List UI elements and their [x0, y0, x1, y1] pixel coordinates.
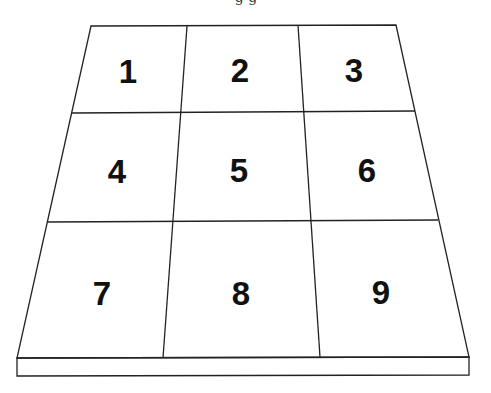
column-divider-2 [298, 25, 320, 357]
cell-label-4: 4 [108, 153, 127, 190]
board-front-edge [17, 357, 469, 376]
cell-label-6: 6 [358, 152, 376, 189]
cell-label-9: 9 [372, 274, 390, 311]
cell-label-5: 5 [230, 152, 248, 189]
row-divider-1 [72, 111, 415, 113]
cell-label-1: 1 [119, 53, 137, 90]
cell-label-2: 2 [231, 52, 249, 89]
cell-label-3: 3 [345, 52, 363, 89]
cell-label-8: 8 [232, 275, 250, 312]
perspective-grid-diagram: g g 1 2 3 4 5 6 7 8 9 [0, 0, 491, 393]
caption-fragment: g g [235, 0, 257, 5]
cell-label-7: 7 [93, 275, 111, 312]
row-divider-2 [47, 220, 438, 222]
column-divider-1 [163, 26, 187, 358]
